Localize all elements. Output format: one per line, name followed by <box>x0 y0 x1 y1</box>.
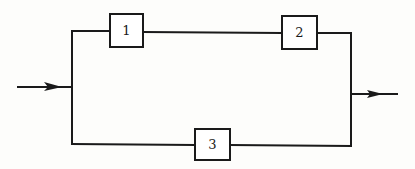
diagram-svg: 1 2 3 <box>0 0 415 169</box>
reliability-block-diagram: 1 2 3 <box>0 0 415 169</box>
block-1-label: 1 <box>122 23 130 38</box>
block-2: 2 <box>282 16 317 49</box>
block-1: 1 <box>110 14 143 47</box>
block-3: 3 <box>195 129 230 160</box>
block-2-label: 2 <box>295 25 303 40</box>
upper-wire-middle <box>143 32 282 33</box>
lower-wire-right <box>230 145 351 146</box>
block-3-label: 3 <box>208 137 216 152</box>
lower-wire-left <box>72 144 195 145</box>
